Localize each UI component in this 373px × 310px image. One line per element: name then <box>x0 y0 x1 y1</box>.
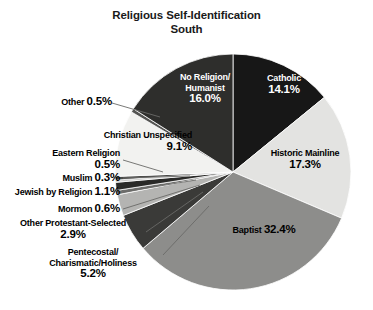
slice-label-baptist-name: Baptist <box>232 225 261 235</box>
slice-label-christian-unspecified-name: Christian Unspecified <box>104 130 192 140</box>
slice-label-baptist-pct: 32.4% <box>264 223 296 235</box>
slice-label-other-pct: 0.5% <box>87 95 112 107</box>
slice-label-historic-mainline-pct: 17.3% <box>289 158 321 170</box>
slice-label-no-religion-line1: No Religion/ <box>180 72 230 82</box>
slice-label-jewish-by-religion-pct: 1.1% <box>95 185 120 197</box>
pie-chart-figure: Religious Self-Identification South Cath… <box>0 0 373 310</box>
slice-label-mormon-name: Mormon <box>58 204 92 214</box>
slice-label-eastern-religion-pct: 0.5% <box>95 158 120 170</box>
slice-label-other-protestant-pct: 2.9% <box>60 228 85 240</box>
slice-label-catholic: Catholic 14.1% <box>249 73 319 95</box>
slice-label-jewish-by-religion-name: Jewish by Religion <box>15 187 92 197</box>
slice-label-eastern-religion: Eastern Religion 0.5% <box>2 148 120 170</box>
slice-label-baptist: Baptist 32.4% <box>216 224 312 236</box>
slice-label-muslim: Muslim 0.3% <box>2 172 120 184</box>
slice-label-muslim-pct: 0.3% <box>95 171 120 183</box>
slice-label-catholic-name: Catholic <box>267 73 301 83</box>
slice-label-mormon-pct: 0.6% <box>95 202 120 214</box>
slice-label-no-religion-line2: Humanist <box>185 83 224 93</box>
slice-label-pentecostal-line2: Charismatic/Holiness <box>49 258 137 268</box>
slice-label-no-religion-humanist: No Religion/ Humanist 16.0% <box>172 72 238 105</box>
slice-label-other-protestant-selected: Other Protestant-Selected 2.9% <box>2 218 144 240</box>
slice-label-eastern-religion-name: Eastern Religion <box>52 148 120 158</box>
slice-label-pentecostal-line1: Pentecostal/ <box>68 247 119 257</box>
slice-label-muslim-name: Muslim <box>62 173 92 183</box>
slice-label-catholic-pct: 14.1% <box>268 83 300 95</box>
slice-label-pentecostal-pct: 5.2% <box>80 267 105 279</box>
slice-label-mormon: Mormon 0.6% <box>2 203 120 215</box>
slice-label-historic-mainline: Historic Mainline 17.3% <box>258 148 352 170</box>
slice-label-other-protestant-name: Other Protestant-Selected <box>20 218 126 228</box>
slice-label-historic-mainline-name: Historic Mainline <box>271 148 340 158</box>
slice-label-no-religion-pct: 16.0% <box>189 92 221 104</box>
slice-label-other: Other 0.5% <box>4 96 112 108</box>
slice-label-other-name: Other <box>61 97 84 107</box>
slice-label-jewish-by-religion: Jewish by Religion 1.1% <box>2 186 120 198</box>
slice-label-pentecostal-charismatic-holiness: Pentecostal/ Charismatic/Holiness 5.2% <box>24 247 162 280</box>
slice-label-christian-unspecified-pct: 9.1% <box>167 140 192 152</box>
